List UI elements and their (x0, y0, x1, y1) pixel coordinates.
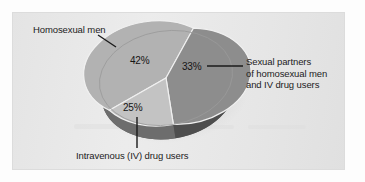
pie-callout-homosexual-men: Homosexual men (33, 24, 106, 36)
pie-callout-sexual-partners-line1: Sexual partners (246, 56, 327, 68)
pie-chart: 42% 33% 25% Homosexual men Sexual partne… (0, 0, 365, 182)
pie-callout-intravenous: Intravenous (IV) drug users (76, 150, 188, 162)
pie-callout-sexual-partners-line3: and IV drug users (246, 79, 327, 91)
pie-value-label-sexual-partners: 33% (182, 61, 201, 72)
pie-value-label-intravenous: 25% (123, 102, 142, 113)
pie-callout-sexual-partners-line2: of homosexual men (246, 68, 327, 80)
pie-callout-sexual-partners: Sexual partners of homosexual men and IV… (246, 56, 327, 91)
pie-value-label-homosexual-men: 42% (130, 55, 149, 66)
figure-container: 42% 33% 25% Homosexual men Sexual partne… (0, 0, 365, 182)
